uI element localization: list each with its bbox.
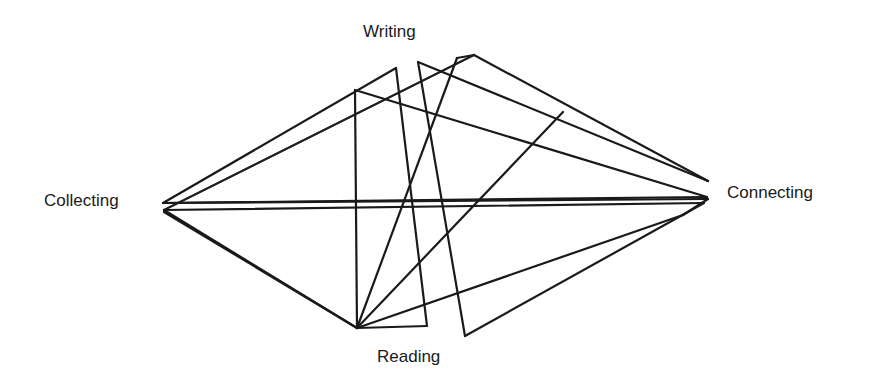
path-segment-2 bbox=[357, 326, 427, 328]
node-label-reading: Reading bbox=[377, 348, 440, 365]
path-segment-3 bbox=[355, 90, 357, 328]
path-segment-4 bbox=[355, 90, 707, 197]
node-label-collecting: Collecting bbox=[44, 192, 119, 209]
node-label-writing: Writing bbox=[363, 23, 416, 40]
path-segment-19 bbox=[164, 212, 357, 328]
path-segment-18 bbox=[164, 55, 474, 210]
path-segment-15 bbox=[164, 203, 704, 210]
node-label-connecting: Connecting bbox=[727, 184, 813, 201]
path-segment-0 bbox=[163, 68, 396, 203]
path-segment-14 bbox=[465, 203, 704, 336]
path-segment-9 bbox=[357, 58, 457, 328]
path-segments bbox=[163, 55, 708, 336]
path-segment-8 bbox=[357, 215, 683, 328]
path-segment-17 bbox=[357, 112, 563, 328]
